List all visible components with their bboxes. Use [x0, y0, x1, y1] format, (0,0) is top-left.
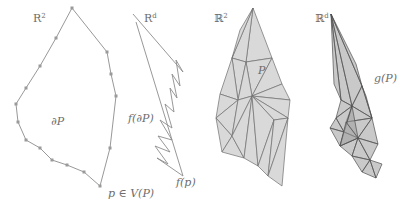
vertex-marker	[39, 147, 42, 150]
vertex-label: p ∈ V(P)	[108, 187, 154, 200]
polygon-boundary-outline	[16, 8, 116, 186]
polygon-vertex-markers	[15, 7, 118, 188]
vertex-marker	[99, 185, 102, 188]
panel-2-space-exponent: d	[152, 12, 157, 20]
mathematical-figure: R2 ∂P p ∈ V(P) Rd f(∂P) f(p) ℝ2 P ℝd g(P…	[0, 0, 417, 210]
panel-4-space-label: ℝd	[315, 12, 329, 25]
image-triangulation-faces	[330, 14, 382, 178]
panel-2-space-label: Rd	[144, 12, 157, 25]
boundary-label: ∂P	[51, 115, 65, 128]
figure-root: R2 ∂P p ∈ V(P) Rd f(∂P) f(p) ℝ2 P ℝd g(P…	[0, 0, 417, 210]
panel-polygon-image: ℝd g(P)	[315, 12, 397, 178]
vertex-marker	[71, 7, 74, 10]
panel-triangulated-polygon: ℝ2 P	[214, 8, 290, 186]
boundary-image-polyline	[133, 14, 183, 176]
vertex-marker	[110, 73, 113, 76]
vertex-marker	[15, 103, 18, 106]
point-image-label: f(p)	[175, 176, 196, 189]
panel-source-polygon: R2 ∂P p ∈ V(P)	[15, 7, 155, 201]
vertex-marker	[83, 171, 86, 174]
panel-4-space-exponent: d	[324, 12, 329, 20]
boundary-image-label: f(∂P)	[127, 112, 154, 125]
panel-boundary-image: Rd f(∂P) f(p)	[127, 12, 196, 189]
panel-3-space-label: ℝ2	[214, 12, 228, 25]
vertex-marker	[106, 51, 109, 54]
polygon-image-label: g(P)	[374, 72, 397, 85]
polygon-label: P	[257, 64, 266, 77]
triangulation-faces	[216, 8, 290, 186]
panel-3-space-exponent: 2	[223, 12, 227, 20]
vertex-marker	[66, 164, 69, 167]
vertex-marker	[55, 37, 58, 40]
vertex-marker	[51, 159, 54, 162]
vertex-marker	[39, 65, 42, 68]
vertex-marker	[115, 95, 118, 98]
panel-1-space-label: R2	[33, 12, 46, 25]
vertex-marker	[25, 139, 28, 142]
vertex-marker	[109, 147, 112, 150]
panel-1-space-exponent: 2	[41, 12, 45, 20]
vertex-marker	[25, 87, 28, 90]
vertex-marker	[17, 121, 20, 124]
